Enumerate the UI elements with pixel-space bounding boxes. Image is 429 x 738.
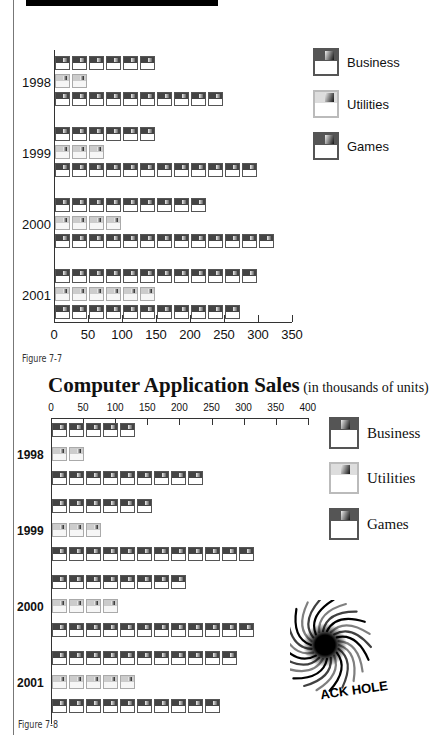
floppy-disk-icon (52, 599, 67, 613)
floppy-disk-icon (89, 305, 104, 319)
bar-business-1998 (55, 56, 157, 71)
bar-games-2000 (52, 623, 264, 638)
floppy-disk-icon (123, 198, 138, 212)
floppy-disk-icon (123, 305, 138, 319)
floppy-disk-icon (225, 305, 240, 319)
floppy-disk-icon (89, 198, 104, 212)
x-tick (244, 418, 245, 425)
floppy-disk-icon (208, 163, 223, 177)
floppy-disk-icon (329, 462, 359, 494)
floppy-disk-icon (191, 305, 206, 319)
floppy-disk-icon (52, 523, 67, 537)
floppy-disk-icon (120, 575, 135, 589)
floppy-disk-icon (52, 423, 67, 437)
bar-games-2001 (52, 699, 232, 714)
x-tick-label: 0 (48, 402, 54, 413)
floppy-disk-icon (120, 471, 135, 485)
floppy-disk-icon (174, 269, 189, 283)
floppy-disk-icon (171, 575, 186, 589)
x-tick-label: 150 (145, 327, 167, 342)
floppy-disk-icon (103, 699, 118, 713)
floppy-disk-icon (72, 287, 87, 301)
floppy-disk-icon (69, 623, 84, 637)
floppy-disk-icon (89, 269, 104, 283)
floppy-disk-icon (55, 127, 70, 141)
title-subtitle: (in thousands of units) (300, 380, 429, 395)
floppy-disk-icon (313, 90, 339, 118)
x-tick (276, 418, 277, 425)
floppy-disk-icon (120, 499, 135, 513)
floppy-disk-icon (157, 305, 172, 319)
floppy-disk-icon (259, 234, 274, 248)
x-tick-label: 300 (247, 327, 269, 342)
floppy-disk-icon (154, 623, 169, 637)
x-tick-label: 300 (235, 402, 252, 413)
y-category-label: 1999 (17, 524, 44, 538)
floppy-disk-icon (106, 269, 121, 283)
legend-business: Business (313, 48, 400, 76)
floppy-disk-icon (120, 699, 135, 713)
bar-utilities-2001 (52, 675, 148, 690)
floppy-disk-icon (157, 163, 172, 177)
page-margin-line (13, 0, 14, 735)
floppy-disk-icon (103, 499, 118, 513)
floppy-disk-icon (137, 699, 152, 713)
floppy-disk-icon (154, 471, 169, 485)
floppy-disk-icon (171, 699, 186, 713)
floppy-disk-icon (137, 651, 152, 665)
floppy-disk-icon (154, 575, 169, 589)
floppy-disk-icon (157, 92, 172, 106)
bar-business-1999 (55, 127, 171, 142)
floppy-disk-icon (72, 92, 87, 106)
bar-games-2001 (55, 305, 245, 320)
floppy-disk-icon (72, 305, 87, 319)
bar-games-2000 (55, 234, 279, 249)
floppy-disk-icon (89, 92, 104, 106)
floppy-disk-icon (140, 127, 155, 141)
floppy-disk-icon (106, 92, 121, 106)
floppy-disk-icon (154, 547, 169, 561)
floppy-disk-icon (222, 651, 237, 665)
bar-games-1998 (55, 92, 225, 107)
floppy-disk-icon (137, 623, 152, 637)
floppy-disk-icon (120, 547, 135, 561)
floppy-disk-icon (52, 623, 67, 637)
floppy-disk-icon (103, 623, 118, 637)
black-hole-logo-icon: ACK HOLE (290, 600, 400, 710)
floppy-disk-icon (86, 547, 101, 561)
x-tick-label: 100 (111, 327, 133, 342)
bar-utilities-2000 (52, 599, 129, 614)
floppy-disk-icon (137, 471, 152, 485)
floppy-disk-icon (89, 287, 104, 301)
floppy-disk-icon (69, 599, 84, 613)
floppy-disk-icon (157, 234, 172, 248)
floppy-disk-icon (137, 499, 152, 513)
y-category-label: 2000 (22, 217, 51, 232)
floppy-disk-icon (72, 74, 87, 88)
floppy-disk-icon (222, 547, 237, 561)
floppy-disk-icon (52, 447, 67, 461)
x-tick (212, 418, 213, 425)
floppy-disk-icon (69, 651, 84, 665)
floppy-disk-icon (171, 623, 186, 637)
x-tick (179, 418, 180, 425)
floppy-disk-icon (86, 471, 101, 485)
x-tick-label: 250 (203, 402, 220, 413)
floppy-disk-icon (69, 447, 84, 461)
bar-business-2001 (55, 269, 259, 284)
floppy-disk-icon (106, 163, 121, 177)
floppy-disk-icon (140, 198, 155, 212)
y-category-label: 2001 (22, 288, 51, 303)
floppy-disk-icon (225, 269, 240, 283)
floppy-disk-icon (188, 547, 203, 561)
floppy-disk-icon (242, 269, 257, 283)
floppy-disk-icon (52, 675, 67, 689)
floppy-disk-icon (69, 575, 84, 589)
bar-games-1998 (52, 471, 213, 486)
x-tick-label: 200 (179, 327, 201, 342)
x-tick-label: 350 (281, 327, 303, 342)
floppy-disk-icon (191, 163, 206, 177)
floppy-disk-icon (171, 651, 186, 665)
floppy-disk-icon (103, 471, 118, 485)
floppy-disk-icon (106, 127, 121, 141)
